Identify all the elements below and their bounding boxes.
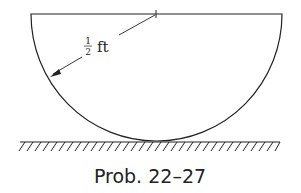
radius-label: 1 2 ft: [84, 36, 109, 57]
arrowhead-icon: [50, 69, 61, 77]
diagram-canvas: 1 2 ft: [0, 0, 301, 193]
semicircle-body: [31, 14, 282, 141]
unit-label: ft: [97, 38, 109, 56]
fraction-numerator: 1: [85, 36, 91, 46]
ground: [19, 142, 280, 151]
figure-caption: Prob. 22–27: [94, 165, 206, 187]
ground-hatching: [19, 142, 280, 151]
fraction-denominator: 2: [85, 47, 91, 57]
